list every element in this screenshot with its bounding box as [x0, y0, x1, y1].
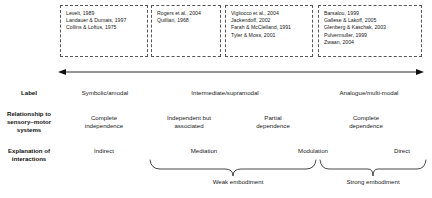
row-label-line: Relationship to [0, 110, 58, 118]
cell-label-intermediate-supramodal: Intermediate/supramodal [170, 89, 280, 97]
cell-explanation-indirect: Indirect [64, 147, 144, 155]
row-label-explanation: Explanation of interactions [0, 147, 58, 163]
citation-line: Quillian, 1968 [157, 17, 216, 24]
cell-relationship-independent-but-associated: Independent but associated [148, 114, 230, 130]
citation-line: Vigliocco et al., 2004 [231, 10, 308, 17]
citation-line: Glenberg & Kaschak, 2003 [324, 24, 417, 31]
cell-line: Independent but [148, 114, 230, 122]
embodiment-continuum-figure: Levelt, 1989 Landauer & Dumais, 1997 Col… [0, 0, 432, 198]
cell-line: Complete [64, 114, 144, 122]
cell-relationship-partial-dependence: Partial dependence [233, 114, 313, 130]
continuum-arrow [58, 64, 424, 80]
cell-line: Complete [325, 114, 407, 122]
citation-box-symbolic-amodal: Levelt, 1989 Landauer & Dumais, 1997 Col… [60, 5, 148, 57]
citation-line: Zwaan, 2004 [324, 39, 417, 46]
cell-relationship-complete-dependence: Complete dependence [325, 114, 407, 130]
cell-label-symbolic-amodal: Symbolic/amodal [62, 89, 148, 97]
cell-explanation-modulation: Modulation [272, 147, 354, 155]
cell-line: dependence [233, 122, 313, 130]
citation-line: Collins & Loftus, 1975 [66, 24, 143, 31]
cell-explanation-mediation: Mediation [163, 147, 245, 155]
row-label-label: Label [0, 89, 58, 97]
brace-label-strong-embodiment: Strong embodiment [325, 178, 421, 186]
cell-explanation-direct: Direct [378, 147, 426, 155]
cell-line: independence [64, 122, 144, 130]
citation-line: Rogers et al., 2004 [157, 10, 216, 17]
row-label-line: systems [0, 126, 58, 134]
cell-label-analogue-multimodal: Analogue/multi-modal [315, 89, 423, 97]
citation-line: Jackendoff, 2002 [231, 17, 308, 24]
cell-line: Partial [233, 114, 313, 122]
cell-line: dependence [325, 122, 407, 130]
row-label-line: sensory–motor [0, 118, 58, 126]
citation-line: Tyler & Moss, 2001 [231, 32, 308, 39]
citation-box-analogue-multimodal: Barsalou, 1999 Gallese & Lakoff, 2005 Gl… [318, 5, 422, 57]
brace-label-weak-embodiment: Weak embodiment [190, 178, 286, 186]
row-label-relationship: Relationship to sensory–motor systems [0, 110, 58, 135]
citation-box-rogers-quillian: Rogers et al., 2004 Quillian, 1968 [151, 5, 221, 57]
cell-relationship-complete-independence: Complete independence [64, 114, 144, 130]
citation-line: Pulvermuller, 1999 [324, 32, 417, 39]
citation-line: Farah & McClelland, 1991 [231, 24, 308, 31]
cell-line: associated [148, 122, 230, 130]
citation-line: Barsalou, 1999 [324, 10, 417, 17]
row-label-line: Explanation of [0, 147, 58, 155]
citation-box-intermediate-supramodal: Vigliocco et al., 2004 Jackendoff, 2002 … [225, 5, 313, 57]
row-label-line: interactions [0, 155, 58, 163]
citation-line: Levelt, 1989 [66, 10, 143, 17]
citation-line: Gallese & Lakoff, 2005 [324, 17, 417, 24]
embodiment-braces [140, 158, 432, 178]
citation-line: Landauer & Dumais, 1997 [66, 17, 143, 24]
